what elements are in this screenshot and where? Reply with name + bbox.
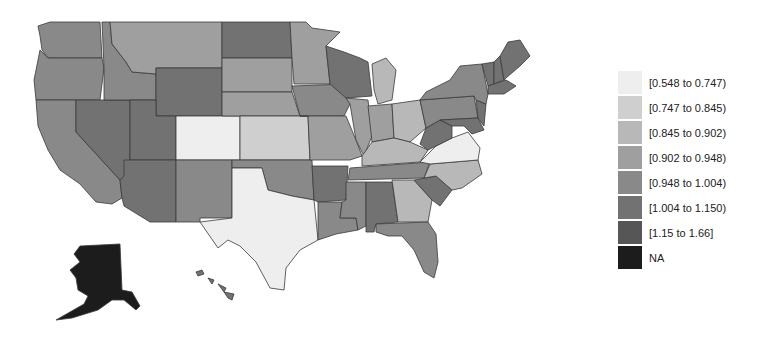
state-hi	[196, 270, 234, 300]
legend-item: [0.747 to 0.845)	[618, 95, 726, 120]
legend-label: [0.948 to 1.004)	[649, 177, 726, 189]
state-sd	[222, 58, 292, 92]
us-choropleth-map	[0, 0, 600, 337]
legend-label: [1.15 to 1.66]	[649, 227, 713, 239]
state-az	[120, 160, 176, 222]
legend-swatch	[618, 246, 642, 270]
legend-item: [1.15 to 1.66]	[618, 220, 726, 245]
legend-item: [0.948 to 1.004)	[618, 170, 726, 195]
legend-item: [0.845 to 0.902)	[618, 120, 726, 145]
state-wy	[156, 68, 222, 116]
state-me	[500, 40, 530, 80]
map-svg	[0, 0, 600, 337]
legend-swatch	[618, 71, 642, 95]
state-nm	[176, 160, 232, 222]
legend-swatch	[618, 96, 642, 120]
legend-item: [1.004 to 1.150)	[618, 195, 726, 220]
legend-swatch	[618, 171, 642, 195]
state-ks	[240, 116, 310, 160]
state-tn	[348, 162, 430, 180]
state-wa	[38, 22, 102, 58]
state-in	[368, 104, 394, 142]
state-ak	[56, 244, 140, 320]
legend-item: [0.902 to 0.948)	[618, 145, 726, 170]
legend-label: [0.548 to 0.747)	[649, 77, 726, 89]
legend-label: NA	[649, 252, 664, 264]
legend-swatch	[618, 146, 642, 170]
state-mi	[372, 58, 396, 104]
legend-swatch	[618, 121, 642, 145]
legend-item: [0.548 to 0.747)	[618, 70, 726, 95]
state-nd	[222, 22, 292, 58]
legend-label: [0.747 to 0.845)	[649, 102, 726, 114]
legend-label: [0.845 to 0.902)	[649, 127, 726, 139]
legend-item: NA	[618, 245, 726, 270]
state-fl	[376, 222, 438, 278]
state-ne	[222, 92, 300, 116]
state-oh	[392, 100, 426, 142]
legend-swatch	[618, 196, 642, 220]
state-co	[176, 116, 240, 160]
map-legend: [0.548 to 0.747) [0.747 to 0.845) [0.845…	[618, 70, 726, 270]
legend-label: [1.004 to 1.150)	[649, 202, 726, 214]
legend-label: [0.902 to 0.948)	[649, 152, 726, 164]
legend-swatch	[618, 221, 642, 245]
state-ky	[362, 138, 428, 166]
state-ar	[312, 166, 348, 202]
